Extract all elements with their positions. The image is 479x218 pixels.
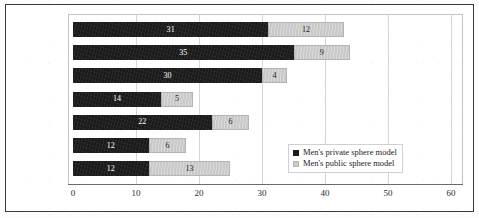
x-axis-line	[68, 184, 463, 185]
legend-swatch-private	[293, 150, 299, 156]
bar-segment-public-sphere: 12	[268, 22, 344, 37]
bar-segment-public-sphere: 6	[149, 138, 187, 153]
x-tick-label: 50	[384, 188, 393, 198]
bar-segment-private-sphere: 12	[73, 138, 149, 153]
bar-value-label: 5	[175, 95, 179, 103]
x-tick-label: 40	[321, 188, 330, 198]
bar-segment-public-sphere: 4	[262, 68, 287, 83]
gridline-30	[262, 15, 263, 184]
bar-segment-public-sphere: 5	[161, 92, 193, 107]
legend-label: Men's private sphere model	[303, 147, 397, 158]
bar-row: 1213	[73, 161, 230, 176]
bar-value-label: 30	[163, 72, 171, 80]
legend-item: Men's private sphere model	[293, 147, 397, 158]
x-tick-label: 30	[258, 188, 267, 198]
x-tick-label: 20	[195, 188, 204, 198]
bar-value-label: 4	[273, 72, 277, 80]
bar-segment-public-sphere: 6	[212, 115, 250, 130]
legend-label: Men's public sphere model	[303, 158, 394, 169]
legend-item: Men's public sphere model	[293, 158, 397, 169]
bar-value-label: 6	[228, 118, 232, 126]
chart-legend: Men's private sphere modelMen's public s…	[288, 144, 403, 173]
bar-value-label: 6	[165, 142, 169, 150]
bar-value-label: 12	[302, 26, 310, 34]
x-tick-label: 0	[71, 188, 76, 198]
bar-segment-public-sphere: 9	[294, 45, 351, 60]
bar-segment-private-sphere: 35	[73, 45, 294, 60]
bar-segment-public-sphere: 13	[149, 161, 231, 176]
bar-row: 3112	[73, 22, 344, 37]
bar-row: 359	[73, 45, 350, 60]
bar-row: 145	[73, 92, 193, 107]
bar-segment-private-sphere: 22	[73, 115, 212, 130]
bar-value-label: 9	[320, 49, 324, 57]
bar-row: 126	[73, 138, 186, 153]
bar-value-label: 22	[138, 118, 146, 126]
bar-row: 226	[73, 115, 249, 130]
bar-row: 304	[73, 68, 287, 83]
bar-segment-private-sphere: 31	[73, 22, 268, 37]
bar-value-label: 13	[185, 165, 193, 173]
gridline-60	[451, 15, 452, 184]
bar-segment-private-sphere: 30	[73, 68, 262, 83]
x-tick-label: 60	[447, 188, 456, 198]
bar-value-label: 31	[167, 26, 175, 34]
x-tick-label: 10	[132, 188, 141, 198]
gridline-20	[199, 15, 200, 184]
bar-segment-private-sphere: 14	[73, 92, 161, 107]
bar-value-label: 14	[113, 95, 121, 103]
bar-segment-private-sphere: 12	[73, 161, 149, 176]
bar-value-label: 12	[107, 142, 115, 150]
legend-swatch-public	[293, 161, 299, 167]
chart-page: 31123593041452261261213 15 – 1718 – 2425…	[0, 0, 479, 218]
bar-value-label: 35	[179, 49, 187, 57]
bar-value-label: 12	[107, 165, 115, 173]
